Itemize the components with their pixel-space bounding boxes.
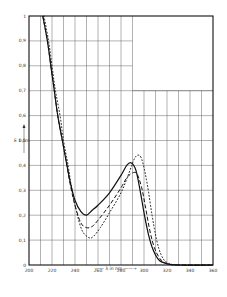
y-tick-label: 0,1 [19,238,26,243]
x-tick-label: 360 [209,268,218,273]
x-tick-label: 200 [25,268,34,273]
y-tick-label: 0,3 [19,188,26,193]
y-tick-label: 0,8 [19,63,26,68]
y-tick-label: 0,2 [19,213,26,218]
grid-lines [29,16,213,265]
x-tick-label: 220 [48,268,57,273]
y-axis-label-group: E 1 cm [14,124,29,153]
y-tick-label: 0,6 [19,113,26,118]
y-tick-label: 1 [23,14,26,19]
x-tick-label: 300 [140,268,149,273]
x-axis-label: —— λ in nm ——→ [95,266,137,271]
up-arrow-icon [23,124,26,128]
x-tick-label: 320 [163,268,172,273]
x-tick-label: 240 [71,268,80,273]
y-tick-label: 0,9 [19,38,26,43]
y-tick-label: 0,4 [19,163,26,168]
absorption-spectrum-chart: 200220240260280300320340360 00,10,20,30,… [0,0,227,297]
x-tick-label: 340 [186,268,195,273]
y-axis-label: E 1 cm [14,138,29,143]
y-tick-label: 0 [23,263,26,268]
y-tick-label: 0,7 [19,88,26,93]
